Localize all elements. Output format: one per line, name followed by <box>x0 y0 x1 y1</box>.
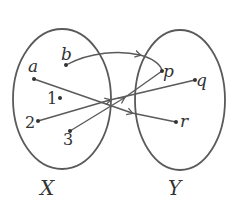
label-1: 1 <box>47 89 57 108</box>
label-3: 3 <box>63 130 73 149</box>
point-a <box>32 77 36 81</box>
label-q: q <box>196 70 207 90</box>
point-1 <box>58 96 62 100</box>
label-2: 2 <box>25 113 35 132</box>
set-y-ellipse <box>135 30 225 170</box>
label-p: p <box>163 61 174 81</box>
point-r <box>174 120 178 124</box>
mapping-diagram: a b 1 2 3 p q r X Y <box>0 0 233 204</box>
set-x-label: X <box>38 176 55 200</box>
arrow-3-to-p <box>124 71 162 98</box>
label-a: a <box>28 56 38 76</box>
label-b: b <box>61 44 72 64</box>
arrow-2-to-q <box>110 80 195 100</box>
arrow-b-to-p-tail <box>140 55 162 70</box>
arrow-3-to-p-head <box>70 98 124 131</box>
label-r: r <box>180 111 189 131</box>
point-2 <box>36 119 40 123</box>
set-y-label: Y <box>168 176 183 200</box>
arrow-a-to-r <box>132 113 176 122</box>
